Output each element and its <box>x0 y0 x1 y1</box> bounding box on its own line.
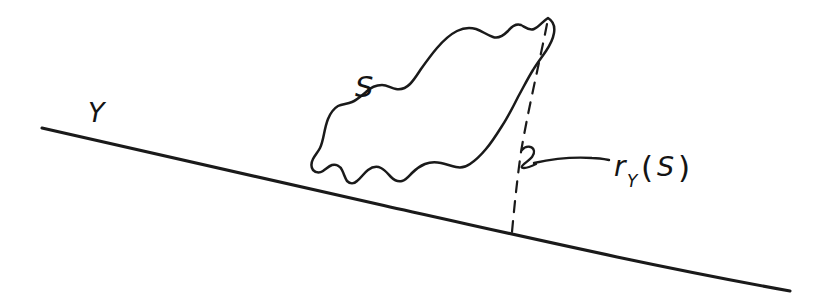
diagram-canvas: Y S r Y ( S ) <box>0 0 834 308</box>
set-S-blob <box>312 18 555 183</box>
leader-hook <box>522 147 536 168</box>
label-map-base: r <box>614 150 627 183</box>
label-map-open-paren: ( <box>641 149 653 185</box>
label-line-Y: Y <box>88 97 107 128</box>
leader-line <box>534 158 609 163</box>
label-map-argument: S <box>657 151 674 182</box>
label-set-S: S <box>355 70 373 104</box>
label-map-close-paren: ) <box>678 149 690 185</box>
label-map-r-Y-S: r Y ( S ) <box>614 149 690 191</box>
figure-svg: Y S r Y ( S ) <box>0 0 834 308</box>
label-map-subscript: Y <box>627 171 639 191</box>
